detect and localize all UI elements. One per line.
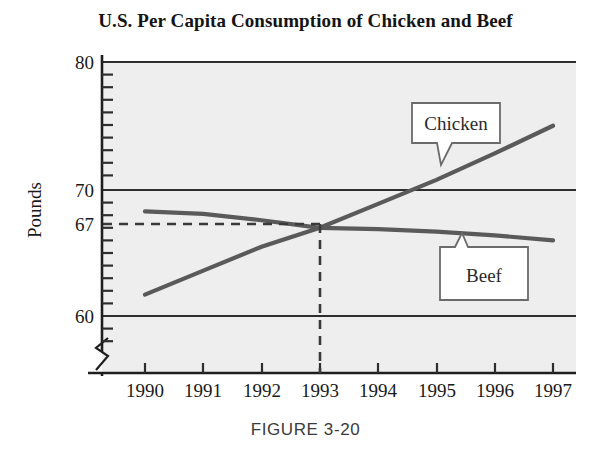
y-tick-label-70: 70 [75, 180, 94, 201]
x-tick-label-1995: 1995 [418, 380, 456, 401]
figure-container: U.S. Per Capita Consumption of Chicken a… [0, 0, 611, 463]
x-tick-label-1994: 1994 [359, 380, 398, 401]
plot-area-background [102, 62, 576, 372]
y-tick-label-80: 80 [75, 52, 94, 73]
x-tick-label-1993: 1993 [301, 380, 339, 401]
callout-beef-label: Beef [466, 265, 503, 286]
callout-chicken-label: Chicken [424, 113, 488, 134]
chart-plot: 80 70 67 60 1990 1991 1992 1993 1994 199… [0, 0, 611, 463]
y-tick-label-67: 67 [75, 214, 94, 235]
y-tick-label-60: 60 [75, 306, 94, 327]
x-tick-label-1990: 1990 [126, 380, 164, 401]
x-tick-label-1991: 1991 [184, 380, 222, 401]
figure-caption: FIGURE 3-20 [0, 420, 611, 440]
x-tick-label-1992: 1992 [243, 380, 281, 401]
x-tick-label-1996: 1996 [476, 380, 514, 401]
x-tick-label-1997: 1997 [534, 380, 572, 401]
